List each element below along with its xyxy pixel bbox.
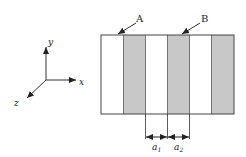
pointer-label-B: B xyxy=(182,13,208,34)
label-A: A xyxy=(135,13,144,24)
z-axis-arrow xyxy=(27,80,46,98)
layered-structure-diagram: y x z A B a1 a2 xyxy=(0,0,246,157)
stripe-2 xyxy=(124,35,146,114)
dimension-a2-label: a2 xyxy=(174,142,183,153)
stripe-layers xyxy=(101,35,234,114)
x-axis-label: x xyxy=(79,77,84,87)
label-B: B xyxy=(201,13,208,24)
stripe-3 xyxy=(146,35,168,114)
stripe-5 xyxy=(190,35,212,114)
dimension-a1-label: a1 xyxy=(152,142,161,153)
stripe-4 xyxy=(168,35,190,114)
stripe-1 xyxy=(101,35,124,114)
stripe-6 xyxy=(212,35,235,114)
pointer-label-A: A xyxy=(118,13,144,34)
dimension-lines: a1 a2 xyxy=(146,114,190,153)
z-axis-label: z xyxy=(13,98,19,108)
coordinate-axes: y x z xyxy=(13,37,84,108)
y-axis-label: y xyxy=(47,37,54,47)
